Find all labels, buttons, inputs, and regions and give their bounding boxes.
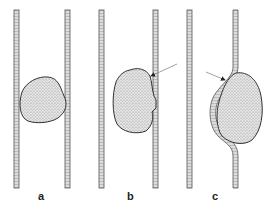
panel-a bbox=[14, 10, 70, 188]
panel-b bbox=[99, 10, 177, 188]
vessel-wall-left-c bbox=[187, 10, 192, 188]
panel-label-b: b bbox=[127, 190, 134, 202]
vessel-wall-left-b bbox=[99, 10, 104, 188]
panel-c bbox=[187, 10, 262, 188]
panel-label-c: c bbox=[212, 190, 218, 202]
panel-label-a: a bbox=[38, 190, 44, 202]
clot-a bbox=[20, 77, 66, 123]
vessel-wall-left-a bbox=[14, 10, 19, 188]
vessel-diagram bbox=[0, 0, 270, 207]
arrow-c bbox=[206, 72, 225, 80]
clot-b bbox=[113, 69, 156, 133]
